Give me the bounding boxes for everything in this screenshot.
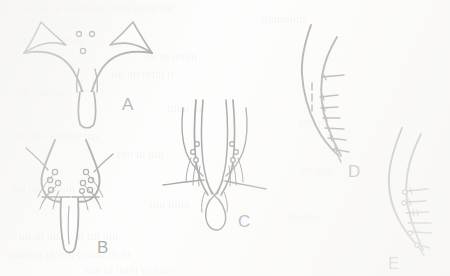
panel-b-drawing [26, 140, 113, 253]
panel-a-pore-1 [77, 32, 82, 37]
panel-label-c: C [238, 212, 251, 232]
panel-label-a: A [122, 95, 134, 115]
panel-label-d: D [348, 162, 361, 182]
panel-d-drawing [302, 25, 349, 162]
figure-plate: lllllllll lll ll lllllllllll llllll llll… [0, 0, 450, 276]
panel-c-drawing [163, 100, 266, 230]
panel-label-e: E [388, 254, 400, 274]
figure-line-art [0, 0, 450, 276]
panel-a-pore-3 [80, 48, 85, 53]
panel-label-b: B [97, 238, 109, 258]
panel-a-pore-2 [90, 32, 95, 37]
panel-e-drawing [389, 128, 432, 256]
